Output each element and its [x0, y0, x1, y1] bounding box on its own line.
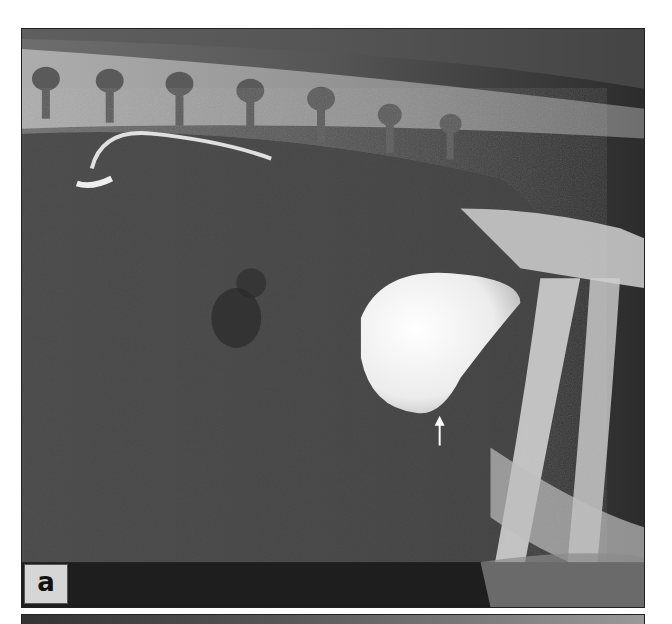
next-panel-edge — [21, 614, 645, 624]
panel-label-box: a — [24, 564, 68, 604]
panel-label: a — [37, 569, 55, 595]
radiograph-panel-a: a — [21, 28, 645, 608]
radiograph-image — [22, 29, 644, 607]
